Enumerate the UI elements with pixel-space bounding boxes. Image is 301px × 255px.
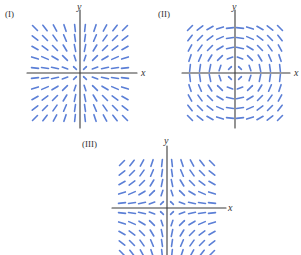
slope-segment (113, 36, 118, 41)
slope-segment (190, 65, 191, 72)
panel-label-iii: (III) (82, 139, 97, 149)
slope-segment (190, 181, 195, 186)
slope-segment (140, 181, 145, 186)
slope-segment (171, 220, 173, 225)
slope-segment (63, 95, 67, 101)
slope-segment (227, 28, 234, 29)
slope-segment (53, 46, 58, 51)
slope-segment (113, 115, 117, 121)
slope-segment (119, 171, 125, 175)
slope-segment (112, 96, 118, 100)
slope-segment (237, 47, 244, 48)
slope-segment (129, 222, 135, 225)
slope-segment (150, 191, 155, 196)
slope-segment (190, 250, 193, 255)
slope-segment (217, 27, 224, 29)
slope-segment (217, 37, 223, 40)
slope-segment (52, 67, 59, 68)
slope-segment (139, 212, 146, 213)
slope-segment (63, 56, 68, 61)
slope-segment (247, 37, 253, 40)
slope-segment (161, 180, 162, 187)
slope-segment (139, 191, 145, 195)
slope-segment (32, 46, 38, 49)
slope-segment (247, 107, 253, 110)
slope-segment (103, 105, 107, 111)
slope-segment (161, 230, 162, 237)
slope-segment (258, 55, 262, 61)
slope-segment (180, 221, 185, 226)
slope-segment (123, 26, 128, 31)
slope-segment (209, 213, 216, 214)
slope-segment (74, 95, 75, 102)
slope-segment (130, 250, 134, 255)
slope-segment (257, 116, 263, 119)
slope-segment (42, 96, 48, 100)
slope-segment (93, 56, 98, 61)
slope-segment (52, 56, 58, 60)
slope-segment (217, 96, 223, 100)
slope-segment (188, 35, 192, 41)
slope-segment (189, 221, 195, 225)
slope-segment (199, 222, 205, 225)
slope-segment (172, 250, 173, 255)
panel-label-i: (I) (5, 9, 14, 19)
slope-segment (102, 77, 109, 78)
slope-segment (199, 55, 202, 61)
slope-segment (103, 35, 107, 41)
slope-segment (119, 241, 125, 245)
slope-segment (32, 87, 39, 89)
slope-segment (209, 203, 216, 204)
slope-segment (199, 213, 206, 214)
slope-segment (84, 55, 86, 60)
slope-segment (162, 160, 163, 167)
slope-segment (181, 250, 183, 255)
slope-segment (85, 25, 86, 32)
slope-segment (209, 241, 215, 245)
slope-segment (162, 250, 163, 255)
slope-segment (85, 35, 86, 42)
slope-segment (74, 45, 75, 52)
panel-label-ii: (II) (158, 9, 170, 19)
slope-segment (189, 202, 196, 203)
slope-segment (43, 25, 47, 31)
slope-segment (84, 67, 87, 70)
slope-segment (190, 160, 193, 166)
slope-segment (237, 97, 244, 98)
slope-segment (258, 46, 263, 51)
slope-segment (200, 65, 201, 72)
slope-segment (200, 171, 205, 176)
slope-segment (53, 35, 57, 41)
slope-segment (32, 96, 38, 99)
slope-segment (94, 25, 96, 32)
slope-segment (209, 65, 210, 72)
slope-segment (180, 230, 184, 236)
slope-segment (75, 35, 76, 42)
slope-segment (94, 105, 97, 111)
slope-segment (247, 117, 254, 119)
slope-segment (227, 97, 234, 98)
slope-segment (122, 46, 128, 49)
slope-segment (74, 55, 76, 60)
slope-segment (227, 108, 234, 109)
slope-segment (208, 55, 212, 61)
slope-segment (179, 202, 184, 204)
slope-segment (112, 87, 118, 90)
slope-segment (171, 202, 174, 205)
slope-segment (209, 192, 216, 194)
slope-segment (85, 105, 86, 112)
slope-segment (171, 180, 172, 187)
slope-segment (172, 170, 173, 177)
slope-segment (171, 212, 174, 215)
slope-segment (198, 36, 203, 41)
slope-segment (162, 240, 163, 247)
slope-segment (85, 115, 86, 122)
slope-segment (32, 36, 38, 40)
slope-segment (259, 65, 260, 72)
slope-segment (113, 25, 117, 31)
slope-segment (102, 86, 108, 90)
slope-segment (207, 26, 213, 29)
slope-field-figure: (I) y x (II) y x (III) y x (0, 0, 301, 255)
slope-segment (53, 96, 58, 101)
slope-segment (280, 75, 281, 82)
